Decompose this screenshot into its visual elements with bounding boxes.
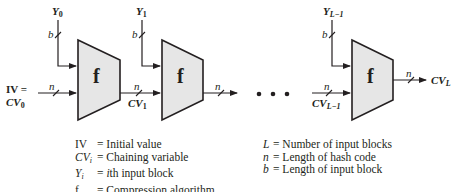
- ellipsis-dots: [257, 92, 290, 97]
- input-yl-1-line: [329, 20, 350, 66]
- legend-row-iv: IV = Initial value: [75, 138, 215, 151]
- n-width-label-cv1: n: [134, 80, 140, 93]
- cv1-link-line: [120, 90, 160, 96]
- b-width-label-2: b: [132, 28, 138, 41]
- block1-f-label: f: [93, 70, 100, 83]
- cvl-1-input-line: [312, 90, 350, 96]
- legend-row-l: L = Number of input blocks: [263, 138, 392, 151]
- n-width-label-cvl: n: [406, 67, 412, 80]
- legend-left: IV = Initial value CVi = Chaining variab…: [75, 138, 215, 192]
- cv1-label: CV1: [128, 97, 147, 113]
- n-width-label-out2: n: [215, 80, 221, 93]
- legend-row-f: f = Compression algorithm: [75, 184, 215, 193]
- y0-label: Y0: [52, 5, 63, 21]
- block3-f-label: f: [367, 70, 374, 83]
- iv-input-line: [38, 90, 76, 96]
- legend-row-n: n = Length of hash code: [263, 151, 392, 164]
- legend-row-b: b = Length of input block: [263, 163, 392, 176]
- cv0-label: CV0: [6, 96, 25, 112]
- cvl-label: CVL: [431, 74, 451, 90]
- legend-row-yi: Yi = ith input block: [75, 167, 215, 184]
- b-width-label-1: b: [48, 28, 54, 41]
- cvl-1-label: CVL−1: [312, 97, 340, 113]
- y1-label: Y1: [136, 5, 147, 21]
- iv-label: IV =: [6, 83, 27, 96]
- input-y1-line: [139, 20, 160, 66]
- input-y0-line: [55, 20, 76, 66]
- yl-1-label: YL−1: [323, 5, 343, 21]
- n-width-label-iv: n: [49, 80, 55, 93]
- legend-row-cvi: CVi = Chaining variable: [75, 151, 215, 168]
- b-width-label-3: b: [322, 28, 328, 41]
- block2-f-label: f: [177, 70, 184, 83]
- legend-right: L = Number of input blocks n = Length of…: [263, 138, 392, 176]
- n-width-label-cvl-1: n: [324, 80, 330, 93]
